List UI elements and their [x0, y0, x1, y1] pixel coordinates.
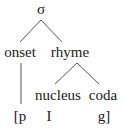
root-sigma-label: σ — [37, 2, 45, 17]
rhyme-node-label: rhyme — [51, 45, 89, 60]
coda-node-label: coda — [89, 88, 117, 103]
edge-rhyme-nucleus — [55, 63, 77, 84]
syllable-tree-diagram: σ onset rhyme nucleus coda [p I g] — [0, 0, 123, 130]
coda-segment-label: g] — [98, 109, 111, 124]
edge-sigma-onset — [20, 20, 41, 42]
edge-sigma-rhyme — [41, 20, 62, 42]
onset-segment-label: [p — [14, 109, 27, 124]
nucleus-node-label: nucleus — [35, 88, 81, 103]
onset-node-label: onset — [4, 45, 36, 60]
edge-rhyme-coda — [77, 63, 99, 84]
nucleus-segment-label: I — [47, 109, 52, 124]
